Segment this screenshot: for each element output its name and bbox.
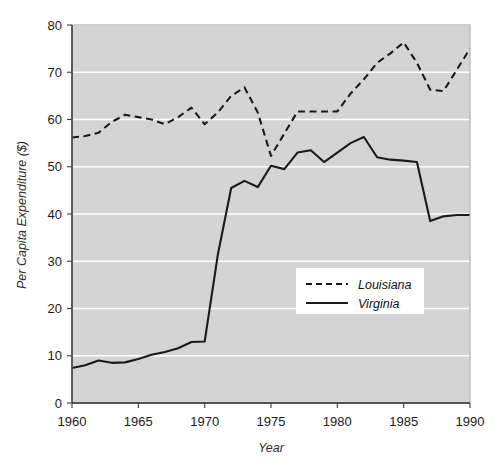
y-tick-label: 10 xyxy=(48,348,62,363)
x-tick-label: 1970 xyxy=(190,414,219,429)
y-tick-label: 80 xyxy=(48,18,62,33)
legend-label-louisiana: Louisiana xyxy=(358,278,412,292)
y-tick-label: 0 xyxy=(55,396,62,411)
y-tick-label: 30 xyxy=(48,254,62,269)
line-chart: 01020304050607080 1960196519701975198019… xyxy=(0,0,503,473)
y-axis-title: Per Capita Expenditure ($) xyxy=(15,141,29,289)
x-tick-label: 1980 xyxy=(323,414,352,429)
y-tick-label: 40 xyxy=(48,207,62,222)
y-tick-label: 20 xyxy=(48,301,62,316)
legend-label-virginia: Virginia xyxy=(358,297,400,311)
chart-container: 01020304050607080 1960196519701975198019… xyxy=(0,0,503,473)
chart-legend: LouisianaVirginia xyxy=(296,268,424,314)
x-tick-label: 1975 xyxy=(257,414,286,429)
y-tick-label: 70 xyxy=(48,65,62,80)
x-tick-label: 1990 xyxy=(456,414,485,429)
x-tick-label: 1965 xyxy=(124,414,153,429)
x-tick-label: 1985 xyxy=(389,414,418,429)
x-tick-label: 1960 xyxy=(58,414,87,429)
x-axis-title: Year xyxy=(258,441,285,455)
y-tick-label: 50 xyxy=(48,159,62,174)
y-tick-label: 60 xyxy=(48,112,62,127)
